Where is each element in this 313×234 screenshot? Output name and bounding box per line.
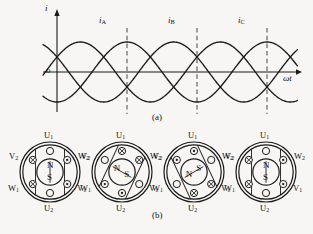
motor-1-pole-label-south: S xyxy=(47,173,52,182)
motor-2-terminal-U2: U2 xyxy=(116,204,125,214)
motor-4-terminal-V2: V2 xyxy=(225,152,234,162)
motor-1-dot-icon-lower-right xyxy=(66,183,68,185)
motor-2-slot-upper-left xyxy=(101,156,108,163)
motor-4-slot-top xyxy=(262,147,269,154)
motor-3-pole-label-north: N xyxy=(186,170,193,179)
motor-3-terminal-U1: U1 xyxy=(188,131,197,141)
curve-label-i_B: iB xyxy=(168,16,175,25)
y-axis-label: i xyxy=(45,4,48,13)
motor-4-terminal-W1: W1 xyxy=(224,184,235,194)
motor-2-pole-label-north: S xyxy=(124,170,129,179)
motor-3-terminal-W1: W1 xyxy=(152,184,163,194)
motor-2-terminal-V2: V2 xyxy=(81,152,90,162)
curve-label-i_A: iA xyxy=(99,16,106,25)
motor-3-slot-upper-right xyxy=(208,156,215,163)
motor-1-pole-label-north: N xyxy=(47,161,54,170)
x-axis-label: ωt xyxy=(283,74,292,83)
motor-2-dot-icon-bottom xyxy=(121,192,123,194)
motor-4-terminal-V1: V1 xyxy=(293,184,302,194)
motor-1-terminal-U1: U1 xyxy=(44,131,53,141)
motor-1-terminal-V2: V2 xyxy=(9,152,18,162)
motor-2-terminal-U1: U1 xyxy=(116,131,125,141)
motor-4-dot-icon-lower-right xyxy=(282,183,284,185)
curve-label-i_C: iC xyxy=(238,16,245,25)
motor-2-terminal-W1: W1 xyxy=(80,184,91,194)
motor-4-terminal-W2: W2 xyxy=(294,152,305,162)
motor-4-terminal-U1: U1 xyxy=(260,131,269,141)
part-a-label: (a) xyxy=(152,113,162,122)
motor-1-dot-icon-upper-right xyxy=(66,159,68,161)
part-b-label: (b) xyxy=(152,211,163,220)
motor-4-pole-label-north: N xyxy=(263,161,270,170)
motor-3-pole-label-south: S xyxy=(196,164,201,173)
motor-3-slot-lower-left xyxy=(173,180,180,187)
motor-4-pole-label-south: S xyxy=(263,173,268,182)
motor-4-dot-icon-upper-right xyxy=(282,159,284,161)
motor-1-slot-bottom xyxy=(46,189,53,196)
motor-3-terminal-U2: U2 xyxy=(188,204,197,214)
motor-3-dot-icon-top xyxy=(193,150,195,152)
motor-2-slot-lower-right xyxy=(136,180,143,187)
motor-1-terminal-W1: W1 xyxy=(8,184,19,194)
motor-2-pole-label-south: N xyxy=(114,164,121,173)
origin-label: o xyxy=(46,66,51,75)
motor-1-slot-top xyxy=(46,147,53,154)
motor-1-terminal-U2: U2 xyxy=(44,204,53,214)
motor-4-slot-bottom xyxy=(262,189,269,196)
motor-2-dot-icon-lower-left xyxy=(104,183,106,185)
motor-3-dot-icon-upper-left xyxy=(176,159,178,161)
motor-3-terminal-V2: V2 xyxy=(153,152,162,162)
motor-4-terminal-U2: U2 xyxy=(260,204,269,214)
